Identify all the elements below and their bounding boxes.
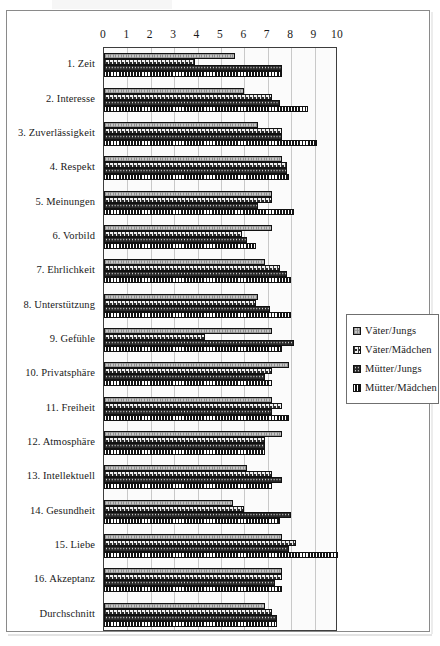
x-tick-label: 0 [100, 27, 106, 41]
bar-group [104, 500, 336, 524]
legend-swatch-icon [353, 384, 361, 392]
category-label: 15. Liebe [54, 539, 95, 551]
category-label: 14. Gesundheit [30, 505, 95, 517]
category-label: 1. Zeit [67, 58, 95, 70]
bar-group [104, 328, 336, 352]
bar [104, 552, 338, 558]
bar [104, 346, 282, 352]
bar [104, 415, 289, 421]
bar-group [104, 122, 336, 146]
legend-swatch-icon [353, 365, 361, 373]
bar-group [104, 156, 336, 180]
category-label: 4. Respekt [50, 161, 95, 173]
x-tick-label: 1 [123, 27, 129, 41]
bar [104, 380, 272, 386]
category-label: 11. Freiheit [46, 402, 95, 414]
x-tick-label: 10 [331, 27, 343, 41]
legend-label: Väter/Jungs [365, 325, 416, 337]
category-label: 10. Privatsphäre [25, 367, 95, 379]
bar [104, 209, 294, 215]
bar [104, 140, 317, 146]
x-tick-label: 4 [194, 27, 200, 41]
bar-group [104, 431, 336, 455]
category-label: 13. Intellektuell [27, 470, 95, 482]
bar [104, 518, 280, 524]
bar [104, 71, 282, 77]
bar-group [104, 225, 336, 249]
bar [104, 621, 277, 627]
x-tick-label: 3 [170, 27, 176, 41]
bar-group [104, 397, 336, 421]
x-tick-label: 8 [287, 27, 293, 41]
legend-item: Väter/Jungs [353, 321, 433, 340]
category-label: 7. Ehrlichkeit [36, 264, 95, 276]
bar-group [104, 568, 336, 592]
legend-item: Väter/Mädchen [353, 340, 433, 359]
x-tick-label: 6 [240, 27, 246, 41]
legend-swatch-icon [353, 327, 361, 335]
category-label: 6. Vorbild [52, 230, 95, 242]
category-label: 16. Akzeptanz [34, 573, 95, 585]
bar-group [104, 362, 336, 386]
legend-label: Väter/Mädchen [365, 344, 432, 356]
category-label: Durchschnitt [40, 608, 95, 620]
x-axis-tick-labels: 012345678910 [103, 27, 337, 45]
category-label: 8. Unterstützung [23, 299, 95, 311]
legend-swatch-icon [353, 346, 361, 354]
bar [104, 243, 256, 249]
bar-group [104, 191, 336, 215]
bar-group [104, 465, 336, 489]
legend-label: Mütter/Jungs [365, 363, 422, 375]
scan-artifact-top [52, 0, 172, 9]
x-tick-label: 7 [264, 27, 270, 41]
bar [104, 586, 282, 592]
bar-group [104, 534, 336, 558]
category-label: 2. Interesse [46, 93, 95, 105]
category-axis-labels: 1. Zeit2. Interesse3. Zuverlässigkeit4. … [7, 47, 99, 631]
legend-label: Mütter/Mädchen [365, 382, 437, 394]
category-label: 9. Gefühle [50, 333, 95, 345]
scan-edge-bottom [8, 634, 432, 636]
bar [104, 312, 291, 318]
category-label: 5. Meinungen [35, 196, 95, 208]
x-tick-label: 2 [147, 27, 153, 41]
category-label: 12. Atmosphäre [27, 436, 95, 448]
bar [104, 174, 289, 180]
chart-legend: Väter/JungsVäter/MädchenMütter/JungsMütt… [346, 314, 439, 404]
bar [104, 106, 308, 112]
legend-item: Mütter/Jungs [353, 359, 433, 378]
category-label: 3. Zuverlässigkeit [18, 127, 95, 139]
bar-group [104, 259, 336, 283]
x-tick-label: 9 [311, 27, 317, 41]
plot-area [103, 47, 337, 631]
bar-group [104, 88, 336, 112]
bar [104, 449, 265, 455]
page-frame: 012345678910 1. Zeit2. Interesse3. Zuver… [6, 10, 430, 632]
bar [104, 277, 291, 283]
bar-group [104, 603, 336, 627]
bar-group [104, 53, 336, 77]
bar [104, 483, 272, 489]
x-tick-label: 5 [217, 27, 223, 41]
legend-item: Mütter/Mädchen [353, 378, 433, 397]
bar-group [104, 294, 336, 318]
